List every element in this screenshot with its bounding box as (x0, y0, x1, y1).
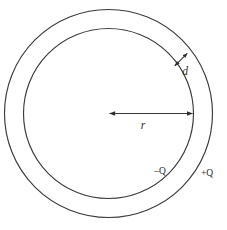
physics-diagram-figure: r d –Q +Q (0, 0, 227, 230)
inner-charge-label: –Q (153, 166, 166, 176)
outer-charge-label: +Q (201, 168, 213, 178)
radius-label: r (141, 119, 146, 131)
diagram-canvas: r d –Q +Q (0, 0, 227, 230)
gap-arrow (175, 53, 187, 65)
gap-label: d (182, 65, 188, 77)
